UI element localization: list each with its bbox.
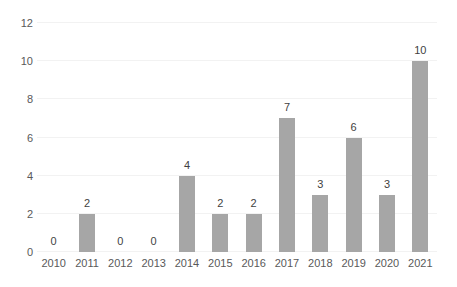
bar-group: 10 (404, 23, 437, 252)
bar-value-label: 6 (351, 122, 357, 133)
x-axis: 2010201120122013201420152016201720182019… (37, 258, 437, 278)
bar-group: 2 (204, 23, 237, 252)
x-axis-tick-label: 2018 (304, 258, 337, 269)
bar-value-label: 3 (384, 179, 390, 190)
bar-group: 7 (270, 23, 303, 252)
bar[interactable] (379, 195, 395, 252)
bar[interactable] (212, 214, 228, 252)
bar-group: 0 (37, 23, 70, 252)
bar[interactable] (312, 195, 328, 252)
bar-value-label: 2 (251, 198, 257, 209)
bar-group: 3 (370, 23, 403, 252)
y-axis-tick-label: 0 (3, 247, 33, 258)
bar[interactable] (79, 214, 95, 252)
bar-chart: 024681012 0200422736310 2010201120122013… (0, 0, 457, 287)
bar-group: 2 (237, 23, 270, 252)
bar-value-label: 0 (117, 236, 123, 247)
bar[interactable] (246, 214, 262, 252)
x-axis-tick-label: 2017 (270, 258, 303, 269)
x-axis-tick-label: 2021 (404, 258, 437, 269)
bar-value-label: 0 (151, 236, 157, 247)
bar-group: 6 (337, 23, 370, 252)
y-axis: 024681012 (0, 23, 33, 252)
bar-value-label: 0 (51, 236, 57, 247)
bar[interactable] (179, 176, 195, 252)
x-axis-tick-label: 2016 (237, 258, 270, 269)
bar-value-label: 10 (414, 45, 426, 56)
bar-group: 3 (304, 23, 337, 252)
bar-value-label: 2 (217, 198, 223, 209)
bar-group: 4 (170, 23, 203, 252)
bar[interactable] (412, 61, 428, 252)
bar-value-label: 4 (184, 160, 190, 171)
bar-group: 0 (137, 23, 170, 252)
bar-group: 2 (70, 23, 103, 252)
bars-layer: 0200422736310 (37, 23, 437, 252)
x-axis-tick-label: 2010 (37, 258, 70, 269)
bar-value-label: 2 (84, 198, 90, 209)
bar-value-label: 3 (317, 179, 323, 190)
y-axis-tick-label: 4 (3, 170, 33, 181)
x-axis-tick-label: 2020 (370, 258, 403, 269)
y-axis-tick-label: 10 (3, 56, 33, 67)
y-axis-tick-label: 12 (3, 18, 33, 29)
y-axis-tick-label: 2 (3, 208, 33, 219)
y-axis-tick-label: 6 (3, 132, 33, 143)
x-axis-tick-label: 2015 (204, 258, 237, 269)
bar-value-label: 7 (284, 102, 290, 113)
y-axis-tick-label: 8 (3, 94, 33, 105)
bar[interactable] (279, 118, 295, 252)
x-axis-tick-label: 2013 (137, 258, 170, 269)
x-axis-tick-label: 2012 (104, 258, 137, 269)
bar[interactable] (346, 138, 362, 253)
x-axis-tick-label: 2011 (70, 258, 103, 269)
x-axis-tick-label: 2019 (337, 258, 370, 269)
x-axis-tick-label: 2014 (170, 258, 203, 269)
bar-group: 0 (104, 23, 137, 252)
